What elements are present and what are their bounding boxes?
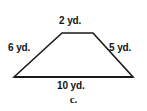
side-label-bottom: 10 yd. bbox=[57, 80, 85, 91]
side-label-right: 5 yd. bbox=[109, 42, 131, 53]
geometry-figure-screenshot: 2 yd. 6 yd. 5 yd. 10 yd. c. bbox=[0, 0, 147, 111]
trapezoid-outline bbox=[14, 33, 133, 77]
figure-caption: c. bbox=[0, 93, 147, 105]
side-label-top: 2 yd. bbox=[59, 15, 81, 26]
side-label-left: 6 yd. bbox=[8, 42, 30, 53]
